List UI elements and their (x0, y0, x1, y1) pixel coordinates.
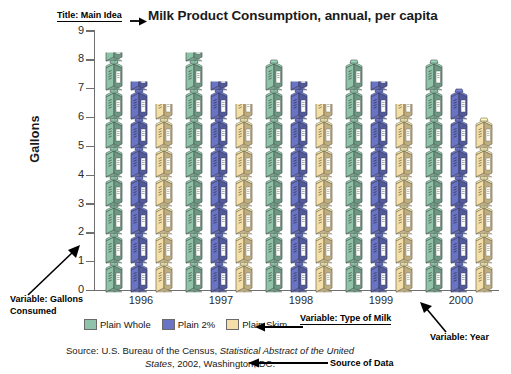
milk-carton (101, 203, 127, 235)
milk-carton (421, 203, 447, 235)
milk-carton-icon (126, 261, 152, 293)
milk-carton-icon (151, 117, 177, 149)
milk-carton (286, 146, 312, 178)
milk-carton-icon (126, 146, 152, 178)
milk-carton (181, 117, 207, 149)
milk-carton-icon (261, 261, 287, 293)
milk-carton-icon (366, 203, 392, 235)
y-axis-tick (86, 261, 95, 262)
milk-carton (446, 261, 472, 293)
milk-carton-partial (101, 30, 127, 62)
milk-carton (231, 146, 257, 178)
milk-carton (286, 117, 312, 149)
y-axis-tick-label: 3 (66, 197, 84, 209)
milk-carton-icon (366, 175, 392, 207)
milk-carton-partial (366, 59, 392, 91)
milk-carton (421, 88, 447, 120)
milk-carton-icon (471, 203, 497, 235)
milk-carton (126, 146, 152, 178)
legend-item: Plain 2% (162, 319, 216, 330)
milk-carton-icon (181, 261, 207, 293)
milk-carton (366, 146, 392, 178)
milk-carton (391, 261, 417, 293)
milk-carton-icon (391, 175, 417, 207)
milk-carton (391, 146, 417, 178)
milk-carton-icon (446, 117, 472, 149)
milk-carton-icon (421, 146, 447, 178)
y-axis-tick (86, 146, 95, 147)
milk-carton-icon (231, 232, 257, 264)
milk-carton (151, 203, 177, 235)
milk-carton-icon (101, 88, 127, 120)
milk-carton-icon (366, 232, 392, 264)
y-axis-tick (86, 175, 95, 176)
annotation-arrow-gallons (24, 245, 84, 297)
milk-carton (446, 203, 472, 235)
milk-carton-icon (206, 203, 232, 235)
annotation-source-of-data: Source of Data (330, 358, 394, 368)
milk-carton-icon (286, 117, 312, 149)
milk-carton-icon (261, 117, 287, 149)
milk-carton-icon (151, 261, 177, 293)
source-line-1: Source: U.S. Bureau of the Census, Stati… (66, 345, 354, 356)
milk-carton (286, 261, 312, 293)
y-axis-tick-label: 8 (66, 52, 84, 64)
milk-carton-icon (446, 232, 472, 264)
milk-carton-icon (471, 232, 497, 264)
y-axis-tick-label: 2 (66, 225, 84, 237)
milk-carton-icon (206, 175, 232, 207)
milk-carton (126, 203, 152, 235)
milk-carton-partial (311, 88, 337, 120)
milk-carton (231, 261, 257, 293)
milk-carton-icon (391, 117, 417, 149)
milk-carton-icon (341, 232, 367, 264)
y-axis-tick (86, 59, 95, 60)
milk-carton-icon (391, 146, 417, 178)
milk-carton (286, 232, 312, 264)
milk-carton-icon (206, 232, 232, 264)
milk-carton (446, 175, 472, 207)
milk-carton (231, 175, 257, 207)
milk-carton (181, 203, 207, 235)
milk-carton (366, 232, 392, 264)
chart-title: Milk Product Consumption, annual, per ca… (148, 8, 438, 23)
milk-carton-icon (391, 203, 417, 235)
milk-carton-icon (341, 203, 367, 235)
milk-carton (471, 175, 497, 207)
milk-carton (101, 117, 127, 149)
milk-carton (151, 261, 177, 293)
milk-carton (126, 117, 152, 149)
x-axis-tick-label: 1998 (271, 294, 331, 306)
x-axis-tick-label: 1999 (351, 294, 411, 306)
y-axis-tick-label: 7 (66, 81, 84, 93)
milk-carton-icon (311, 203, 337, 235)
milk-carton-icon (286, 175, 312, 207)
milk-carton-icon (181, 232, 207, 264)
milk-carton (391, 117, 417, 149)
milk-carton-icon (231, 146, 257, 178)
milk-carton (341, 88, 367, 120)
annotation-arrow-title (130, 17, 148, 27)
milk-carton-icon (126, 232, 152, 264)
milk-carton-icon (446, 203, 472, 235)
milk-carton-icon (311, 261, 337, 293)
annotation-arrow-source-of-data (248, 357, 328, 369)
milk-carton (261, 88, 287, 120)
milk-carton-icon (446, 88, 472, 120)
milk-carton (311, 175, 337, 207)
milk-carton-icon (101, 59, 127, 91)
milk-carton (446, 232, 472, 264)
milk-carton (181, 59, 207, 91)
milk-carton-icon (231, 261, 257, 293)
y-axis-tick-label: 4 (66, 168, 84, 180)
milk-carton (366, 175, 392, 207)
milk-carton-icon (206, 59, 232, 91)
milk-carton-icon (181, 88, 207, 120)
year-group-1998 (261, 30, 336, 292)
milk-carton-icon (421, 203, 447, 235)
milk-carton (286, 175, 312, 207)
milk-carton (126, 88, 152, 120)
y-axis-title: Gallons (28, 100, 42, 178)
milk-carton (391, 232, 417, 264)
milk-carton (286, 203, 312, 235)
